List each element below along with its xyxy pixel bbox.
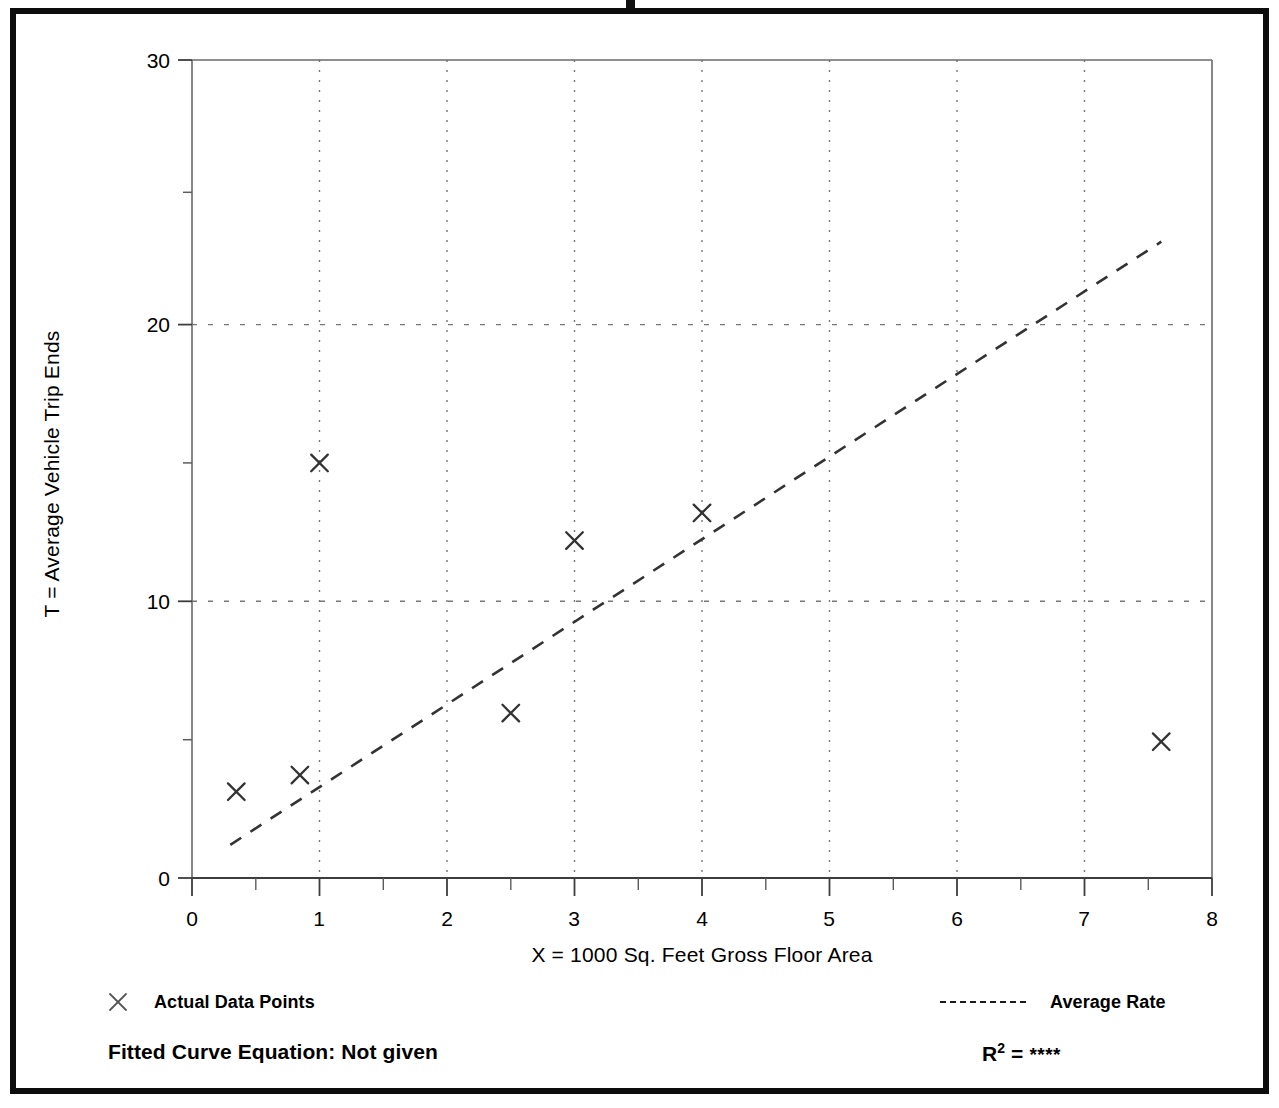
legend-label-actual-data-points: Actual Data Points bbox=[154, 992, 315, 1013]
r-squared-letter: R bbox=[982, 1042, 997, 1065]
y-axis-minor-ticks bbox=[183, 192, 192, 739]
data-point-marker bbox=[503, 705, 520, 722]
scatter-chart: 30 20 10 0 0 1 2 3 4 5 6 7 8 T = Average… bbox=[0, 0, 1279, 1108]
r-squared-equals: = bbox=[1005, 1042, 1029, 1065]
y-axis-title: T = Average Vehicle Trip Ends bbox=[40, 294, 64, 654]
data-point-marker bbox=[694, 505, 711, 522]
y-tick-label-0: 0 bbox=[110, 868, 170, 889]
legend-item-actual-data-points: Actual Data Points bbox=[108, 985, 315, 1019]
data-point-marker bbox=[1153, 733, 1170, 750]
y-tick-label-20: 20 bbox=[110, 314, 170, 335]
y-axis-major-ticks bbox=[178, 60, 192, 878]
dashed-line-icon bbox=[940, 1001, 1026, 1003]
chart-footer: Fitted Curve Equation: Not given R2 = **… bbox=[0, 1040, 1279, 1080]
vertical-gridlines bbox=[320, 60, 1085, 878]
x-axis-major-ticks bbox=[192, 878, 1212, 896]
horizontal-gridlines bbox=[192, 325, 1212, 602]
x-tick-label-5: 5 bbox=[809, 908, 849, 929]
x-marker-icon bbox=[108, 992, 128, 1012]
r-squared-stars: **** bbox=[1029, 1044, 1061, 1065]
x-tick-label-7: 7 bbox=[1064, 908, 1104, 929]
r-squared-value: R2 = **** bbox=[982, 1040, 1061, 1066]
fitted-curve-equation: Fitted Curve Equation: Not given bbox=[108, 1040, 438, 1064]
y-tick-label-10: 10 bbox=[110, 591, 170, 612]
y-tick-label-30: 30 bbox=[110, 50, 170, 71]
x-axis-title: X = 1000 Sq. Feet Gross Floor Area bbox=[192, 943, 1212, 967]
data-point-marker bbox=[292, 767, 309, 784]
data-point-marker bbox=[566, 532, 583, 549]
plot-canvas bbox=[0, 0, 1279, 1108]
legend-label-average-rate: Average Rate bbox=[1050, 992, 1166, 1013]
data-point-marker bbox=[228, 783, 245, 800]
data-point-markers bbox=[228, 455, 1170, 800]
x-tick-label-3: 3 bbox=[554, 908, 594, 929]
x-tick-label-2: 2 bbox=[427, 908, 467, 929]
data-point-marker bbox=[311, 455, 328, 472]
r-squared-exponent: 2 bbox=[997, 1040, 1005, 1056]
x-tick-label-0: 0 bbox=[172, 908, 212, 929]
x-tick-label-1: 1 bbox=[299, 908, 339, 929]
chart-legend: Actual Data Points Average Rate bbox=[0, 985, 1279, 1019]
x-tick-label-4: 4 bbox=[682, 908, 722, 929]
plot-frame bbox=[192, 60, 1212, 878]
average-rate-trend-line bbox=[230, 242, 1161, 845]
x-tick-label-6: 6 bbox=[937, 908, 977, 929]
legend-item-average-rate: Average Rate bbox=[940, 985, 1166, 1019]
x-tick-label-8: 8 bbox=[1192, 908, 1232, 929]
